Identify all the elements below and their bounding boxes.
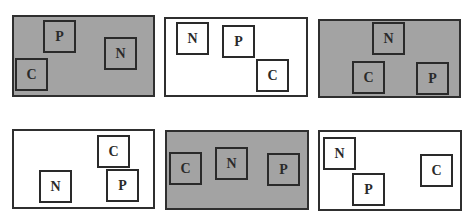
panel-1: P N C xyxy=(12,15,155,97)
box-p: P xyxy=(416,62,449,95)
box-p: P xyxy=(352,173,385,206)
box-n: N xyxy=(176,22,209,55)
box-c: C xyxy=(169,152,202,185)
box-c: C xyxy=(97,135,130,168)
box-c: C xyxy=(352,61,385,94)
box-n: N xyxy=(39,170,72,203)
panel-6: N P C xyxy=(318,130,462,211)
box-n: N xyxy=(372,22,405,55)
panel-2: N P C xyxy=(164,17,308,97)
box-c: C xyxy=(15,58,48,91)
box-p: P xyxy=(106,169,139,202)
box-n: N xyxy=(104,37,137,70)
box-n: N xyxy=(323,137,356,170)
panel-3: N C P xyxy=(318,19,461,98)
box-c: C xyxy=(420,154,453,187)
box-n: N xyxy=(215,147,248,180)
box-c: C xyxy=(256,59,289,92)
panel-5: C N P xyxy=(165,130,309,210)
box-p: P xyxy=(267,153,300,186)
panel-4: C N P xyxy=(12,129,155,209)
box-p: P xyxy=(43,20,76,53)
box-p: P xyxy=(222,25,255,58)
